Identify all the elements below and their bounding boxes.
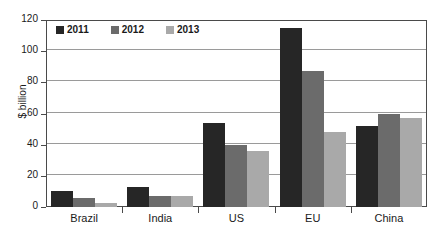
bar-brazil-2013 <box>95 203 117 207</box>
bar-group <box>122 20 198 207</box>
bar-eu-2011 <box>280 28 302 207</box>
bars-layer <box>46 20 427 207</box>
bar-eu-2013 <box>324 132 346 207</box>
bar-us-2011 <box>203 123 225 207</box>
y-tick-label: 120 <box>0 13 38 24</box>
legend-swatch-icon <box>166 26 174 34</box>
bar-brazil-2011 <box>51 191 73 207</box>
legend-label: 2013 <box>177 24 199 35</box>
legend-swatch-icon <box>111 26 119 34</box>
bar-group <box>198 20 274 207</box>
x-tick-label-us: US <box>199 212 275 224</box>
y-tick-mark <box>41 207 46 208</box>
legend: 201120122013 <box>56 24 199 35</box>
y-tick-label: 20 <box>0 169 38 180</box>
bar-china-2011 <box>356 126 378 207</box>
bar-india-2011 <box>127 187 149 207</box>
legend-item-2013[interactable]: 2013 <box>166 24 199 35</box>
x-tick-mark <box>351 207 352 213</box>
bar-group <box>275 20 351 207</box>
bar-us-2013 <box>247 151 269 207</box>
legend-swatch-icon <box>56 26 64 34</box>
x-tick-label-eu: EU <box>275 212 351 224</box>
bar-india-2013 <box>171 196 193 207</box>
legend-item-2011[interactable]: 2011 <box>56 24 89 35</box>
y-tick-label: 40 <box>0 138 38 149</box>
legend-label: 2011 <box>67 24 89 35</box>
x-tick-mark <box>198 207 199 213</box>
y-tick-label: 100 <box>0 44 38 55</box>
legend-label: 2012 <box>122 24 144 35</box>
bar-china-2013 <box>400 118 422 207</box>
x-tick-label-brazil: Brazil <box>46 212 122 224</box>
x-tick-mark <box>122 207 123 213</box>
bar-chart: $ billion 020406080100120 BrazilIndiaUSE… <box>0 0 439 237</box>
x-tick-mark <box>275 207 276 213</box>
bar-eu-2012 <box>302 71 324 207</box>
bar-india-2012 <box>149 196 171 207</box>
bar-brazil-2012 <box>73 198 95 207</box>
bar-group <box>351 20 427 207</box>
x-tick-label-india: India <box>122 212 198 224</box>
x-tick-label-china: China <box>351 212 427 224</box>
y-tick-label: 60 <box>0 107 38 118</box>
bar-china-2012 <box>378 114 400 208</box>
legend-item-2012[interactable]: 2012 <box>111 24 144 35</box>
y-tick-label: 0 <box>0 200 38 211</box>
y-tick-label: 80 <box>0 75 38 86</box>
bar-group <box>46 20 122 207</box>
bar-us-2012 <box>225 145 247 207</box>
